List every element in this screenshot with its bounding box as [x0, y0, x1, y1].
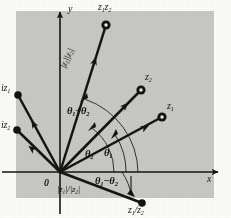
y-axis-label: y: [68, 4, 72, 14]
marker-iz2: [13, 126, 21, 134]
vector-label-z1-over-z2: z1/z2: [128, 205, 144, 216]
magnitude-label-quotient: |z1|/|z2|: [57, 185, 80, 195]
vector-label-z1z2: z1z2: [98, 2, 111, 13]
vector-label-iz1: iz1: [1, 83, 10, 94]
origin-label: 0: [44, 178, 49, 188]
vector-label-z2: z2: [145, 72, 152, 83]
plot-panel: [16, 11, 214, 198]
angle-label-theta1-minus-theta2: θ1−θ2: [95, 176, 118, 187]
angle-label-theta1: θ1: [104, 148, 112, 159]
x-axis-label: x: [207, 174, 211, 184]
angle-label-theta1-plus-theta2: θ1+θ2: [67, 106, 89, 117]
vector-label-z1: z1: [167, 101, 174, 112]
complex-plane-figure: y x 0 z1z2 z2 z1 iz1 iz2 z1/z2 θ1 θ2 θ1+…: [0, 0, 231, 218]
angle-label-theta2: θ2: [85, 149, 93, 160]
marker-iz1: [14, 91, 22, 99]
vector-label-iz2: iz2: [1, 120, 10, 131]
